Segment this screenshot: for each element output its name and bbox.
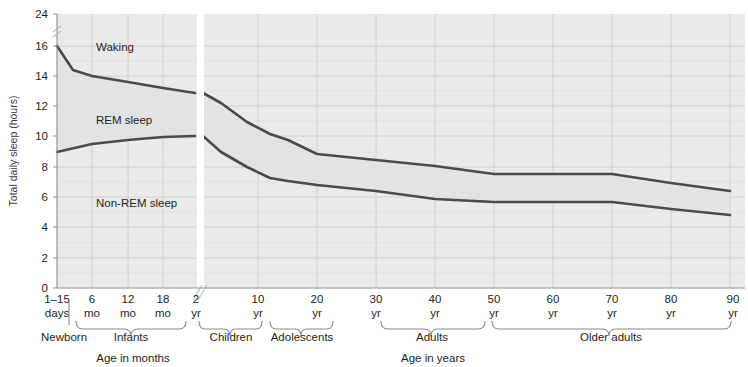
x-tick-unit-9: yr bbox=[489, 307, 499, 319]
annotation-non-rem-sleep: Non-REM sleep bbox=[96, 197, 177, 209]
y-tick-14: 14 bbox=[35, 70, 48, 82]
y-tick-4: 4 bbox=[42, 221, 49, 233]
x-tick-label-13: 90 bbox=[727, 293, 740, 305]
y-tick-10: 10 bbox=[35, 130, 48, 142]
sleep-chart-figure: 24 16 14 12 10 8 6 4 2 0 Total daily sle… bbox=[0, 0, 748, 367]
x-tick-label-9: 50 bbox=[488, 293, 501, 305]
y-tick-2: 2 bbox=[42, 252, 48, 264]
group-label-older-adults: Older adults bbox=[580, 331, 642, 343]
age-group-labels: Newborn Infants Children Adolescents Adu… bbox=[41, 331, 642, 343]
y-tick-12: 12 bbox=[35, 100, 48, 112]
group-label-infants: Infants bbox=[114, 331, 149, 343]
x-tick-unit-1: mo bbox=[84, 307, 100, 319]
x-tick-unit-4: yr bbox=[191, 307, 201, 319]
x-tick-label-7: 30 bbox=[370, 293, 383, 305]
y-axis-tick-labels: 24 16 14 12 10 8 6 4 2 0 bbox=[35, 8, 48, 294]
x-tick-unit-12: yr bbox=[666, 307, 676, 319]
x-tick-label-12: 80 bbox=[665, 293, 678, 305]
x-tick-label-10: 60 bbox=[547, 293, 560, 305]
x-tick-label-3: 18 bbox=[157, 293, 170, 305]
chart-svg: 24 16 14 12 10 8 6 4 2 0 Total daily sle… bbox=[0, 0, 748, 367]
x-tick-unit-13: yr bbox=[728, 307, 738, 319]
group-label-adolescents: Adolescents bbox=[271, 331, 334, 343]
x-tick-unit-3: mo bbox=[155, 307, 171, 319]
group-label-newborn: Newborn bbox=[41, 331, 87, 343]
group-label-children: Children bbox=[210, 331, 253, 343]
x-tick-unit-10: yr bbox=[548, 307, 558, 319]
x-tick-unit-11: yr bbox=[607, 307, 617, 319]
x-tick-unit-7: yr bbox=[371, 307, 381, 319]
x-tick-label-1: 6 bbox=[89, 293, 95, 305]
y-tick-8: 8 bbox=[42, 161, 48, 173]
x-tick-label-4: 2 bbox=[193, 293, 199, 305]
group-label-adults: Adults bbox=[416, 331, 448, 343]
annotation-rem-sleep: REM sleep bbox=[96, 114, 152, 126]
x-axis-range-titles: Age in months Age in years bbox=[96, 352, 465, 364]
x-axis-title-years: Age in years bbox=[401, 352, 465, 364]
x-tick-unit-5: yr bbox=[253, 307, 263, 319]
x-tick-unit-2: mo bbox=[120, 307, 136, 319]
x-tick-unit-0: days bbox=[45, 307, 70, 319]
x-axis-tick-labels-left: 1–15 days 6 mo 12 mo 18 mo 2 yr bbox=[44, 293, 201, 319]
y-axis-title: Total daily sleep (hours) bbox=[7, 96, 19, 207]
y-tick-6: 6 bbox=[42, 191, 48, 203]
plot-background bbox=[57, 14, 745, 288]
x-axis-tick-labels-right: 10 yr 20 yr 30 yr 40 yr 50 yr 60 yr 70 y… bbox=[252, 293, 740, 319]
x-tick-unit-8: yr bbox=[430, 307, 440, 319]
y-axis-title-text: Total daily sleep (hours) bbox=[7, 96, 19, 207]
annotation-waking: Waking bbox=[96, 41, 134, 53]
x-tick-label-11: 70 bbox=[606, 293, 619, 305]
x-tick-label-0: 1–15 bbox=[44, 293, 70, 305]
x-tick-label-6: 20 bbox=[311, 293, 324, 305]
x-tick-label-5: 10 bbox=[252, 293, 265, 305]
y-tick-24: 24 bbox=[35, 8, 48, 20]
x-axis-title-months: Age in months bbox=[96, 352, 170, 364]
y-tick-16: 16 bbox=[35, 40, 48, 52]
x-tick-label-8: 40 bbox=[429, 293, 442, 305]
x-tick-label-2: 12 bbox=[122, 293, 135, 305]
x-tick-unit-6: yr bbox=[312, 307, 322, 319]
